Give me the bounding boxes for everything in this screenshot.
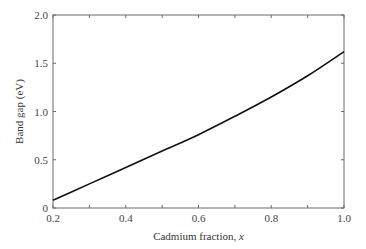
y-tick-label: 0 — [43, 202, 49, 214]
x-tick-label: 1.0 — [337, 212, 351, 224]
y-axis-ticks: 00.51.01.52.0 — [34, 9, 344, 214]
y-tick-label: 1.5 — [34, 57, 48, 69]
band-gap-curve — [53, 52, 344, 201]
x-axis-label: Cadmium fraction, x — [153, 230, 244, 242]
y-tick-label: 2.0 — [34, 9, 48, 21]
x-tick-label: 0.2 — [46, 212, 60, 224]
x-tick-label: 0.4 — [119, 212, 133, 224]
x-tick-label: 0.6 — [192, 212, 206, 224]
plot-frame — [53, 15, 344, 208]
x-tick-label: 0.8 — [264, 212, 278, 224]
y-axis-label: Band gap (eV) — [13, 79, 26, 144]
y-tick-label: 0.5 — [34, 154, 48, 166]
x-axis-ticks: 0.20.40.60.81.0 — [46, 15, 351, 224]
band-gap-chart: 0.20.40.60.81.0 00.51.01.52.0 Cadmium fr… — [0, 0, 366, 249]
y-tick-label: 1.0 — [34, 106, 48, 118]
